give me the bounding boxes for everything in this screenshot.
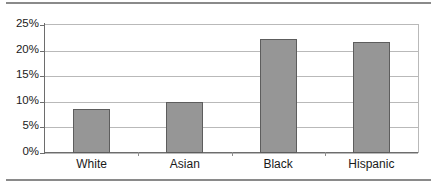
bar xyxy=(166,102,203,153)
x-axis-category-label: White xyxy=(45,157,138,171)
y-axis-tick-label: 5% xyxy=(22,120,39,132)
top-divider-rule xyxy=(6,2,431,4)
y-axis-tick-mark xyxy=(40,127,45,128)
chart-figure: 0%5%10%15%20%25% WhiteAsianBlackHispanic xyxy=(0,0,437,191)
x-axis-category-label: Asian xyxy=(138,157,231,171)
y-axis-tick-label: 0% xyxy=(22,146,39,158)
y-axis-tick-mark xyxy=(40,102,45,103)
bottom-divider-rule xyxy=(6,179,431,181)
y-axis-tick-label: 25% xyxy=(16,18,39,30)
y-axis-tick-label: 20% xyxy=(16,44,39,56)
y-axis-tick-mark xyxy=(40,153,45,154)
y-axis-tick-label: 10% xyxy=(16,95,39,107)
bar xyxy=(353,42,390,153)
plot-area xyxy=(45,24,419,153)
x-axis-category-label: Hispanic xyxy=(325,157,418,171)
bar xyxy=(260,39,297,153)
y-axis-tick-label: 15% xyxy=(16,69,39,81)
x-axis-category-label: Black xyxy=(232,157,325,171)
y-axis-tick-mark xyxy=(40,25,45,26)
bar xyxy=(73,109,110,153)
y-axis-tick-mark xyxy=(40,76,45,77)
y-axis-tick-mark xyxy=(40,51,45,52)
x-axis-tick-mark xyxy=(232,152,233,156)
x-axis-tick-mark xyxy=(138,152,139,156)
x-axis-tick-mark xyxy=(325,152,326,156)
